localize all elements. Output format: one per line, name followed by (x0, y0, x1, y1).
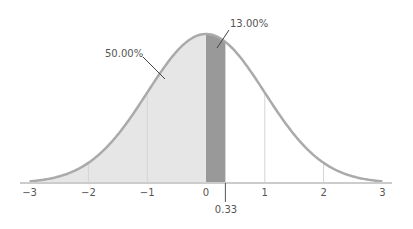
normal-distribution-chart: −3−2−10123 50.00% 13.00% 0.33 (0, 0, 413, 229)
x-tick-label: 0 (203, 187, 209, 198)
left-area-leader (143, 57, 165, 79)
x-tick-label: 3 (379, 187, 385, 198)
x-tick-label: −2 (81, 187, 96, 198)
x-tick-label: −1 (140, 187, 155, 198)
x-tick-label: −3 (22, 187, 37, 198)
left-area-label: 50.00% (105, 48, 143, 59)
mid-area-label: 13.00% (230, 18, 268, 29)
shaded-region (206, 34, 225, 183)
x-axis-ticks: −3−2−10123 (22, 187, 385, 198)
x-tick-label: 2 (320, 187, 326, 198)
marker-label: 0.33 (215, 204, 237, 215)
x-tick-label: 1 (262, 187, 268, 198)
